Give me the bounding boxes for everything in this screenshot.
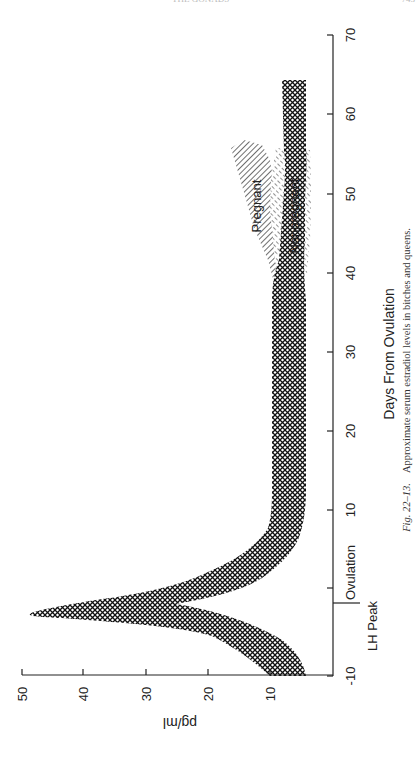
lh-peak-label: LH Peak	[365, 601, 380, 651]
caption-text: Approximate serum estradiol levels in bi…	[401, 228, 412, 473]
pregnant-label: Pregnant	[249, 179, 264, 232]
svg-text:10: 10	[263, 687, 278, 701]
svg-text:-10: -10	[343, 667, 358, 686]
svg-text:10: 10	[343, 503, 358, 517]
svg-text:20: 20	[343, 424, 358, 438]
svg-text:60: 60	[343, 107, 358, 121]
y-axis-tick-labels: 50 40 30 20 10	[15, 687, 278, 701]
svg-text:50: 50	[343, 187, 358, 201]
svg-text:40: 40	[343, 266, 358, 280]
svg-text:20: 20	[201, 687, 216, 701]
svg-text:30: 30	[139, 687, 154, 701]
svg-text:Fig. 22–13. Approximate: Fig. 22–13. Approximate serum estradiol …	[401, 228, 412, 533]
svg-text:70: 70	[343, 28, 358, 42]
nonpregnant-label: Nonpregnant	[287, 178, 302, 254]
estradiol-chart: Pregnant Nonpregnant 70 60 50 40 30 20 1…	[0, 0, 417, 758]
svg-text:30: 30	[343, 345, 358, 359]
svg-text:40: 40	[76, 687, 91, 701]
ovulation-label: Ovulation	[343, 545, 358, 600]
y-axis-title: pg/ml	[163, 715, 197, 731]
x-axis-title: Days From Ovulation	[381, 288, 397, 419]
figure-number: Fig. 22–13.	[401, 483, 412, 533]
figure-caption: Fig. 22–13. Approximate serum estradiol …	[401, 228, 412, 533]
svg-text:50: 50	[15, 687, 30, 701]
